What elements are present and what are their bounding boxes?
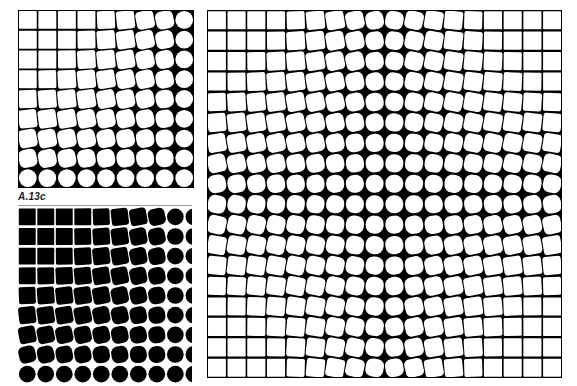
- grid-cell-shape: [266, 276, 287, 297]
- grid-cell-shape: [77, 11, 95, 29]
- grid-cell-shape: [484, 338, 502, 356]
- grid-cell-shape: [167, 326, 184, 343]
- grid-cell-shape: [286, 358, 305, 377]
- grid-cell-shape: [247, 72, 266, 91]
- grid-cell-shape: [167, 346, 184, 363]
- grid-cell-shape: [208, 32, 226, 50]
- grid-cell-shape: [115, 49, 136, 70]
- grid-cell-shape: [74, 228, 91, 245]
- grid-cell-shape: [325, 30, 346, 51]
- grid-cell-shape: [484, 32, 502, 50]
- grid-cell-shape: [504, 52, 522, 70]
- grid-cell-shape: [167, 267, 184, 284]
- grid-cell-shape: [502, 132, 524, 154]
- grid-cell-shape: [423, 316, 445, 338]
- grid-cell-shape: [111, 366, 128, 383]
- grid-cell-shape: [464, 11, 483, 30]
- grid-cell-shape: [92, 247, 111, 266]
- grid-cell-shape: [504, 318, 522, 336]
- grid-cell-shape: [175, 51, 193, 69]
- grid-cell-shape: [247, 297, 266, 316]
- grid-cell-shape: [463, 71, 484, 92]
- grid-cell-shape: [305, 337, 325, 357]
- grid-cell-shape: [97, 169, 115, 187]
- grid-cell-shape: [128, 226, 148, 246]
- grid-cell-shape: [484, 11, 502, 29]
- grid-cell-shape: [443, 30, 463, 50]
- grid-cell-shape: [115, 69, 136, 90]
- grid-cell-shape: [523, 72, 541, 90]
- grid-cell-shape: [523, 318, 541, 336]
- grid-cell-shape: [58, 50, 76, 68]
- grid-cell-shape: [208, 93, 227, 112]
- grid-cell-shape: [57, 70, 76, 89]
- grid-cell-shape: [443, 71, 464, 92]
- grid-cell-shape: [444, 358, 464, 378]
- grid-cell-shape: [286, 317, 306, 337]
- grid-cell-shape: [156, 169, 174, 187]
- grid-cell-shape: [19, 267, 36, 284]
- grid-cell-shape: [523, 52, 541, 70]
- grid-cell-shape: [207, 132, 227, 153]
- grid-cell-shape: [324, 50, 346, 72]
- grid-cell-shape: [543, 297, 561, 315]
- grid-cell-shape: [226, 112, 246, 132]
- grid-cell-shape: [523, 11, 541, 29]
- grid-cell-shape: [246, 276, 266, 296]
- grid-cell-shape: [56, 108, 77, 129]
- grid-cell-shape: [482, 112, 503, 133]
- grid-cell-shape: [325, 337, 346, 358]
- grid-cell-shape: [483, 52, 502, 71]
- grid-cell-shape: [130, 366, 147, 383]
- grid-cell-shape: [76, 69, 96, 89]
- grid-cell-shape: [19, 228, 36, 245]
- grid-cell-shape: [285, 275, 306, 296]
- grid-cell-shape: [543, 93, 562, 112]
- grid-cell-shape: [135, 10, 156, 30]
- grid-cell-shape: [93, 208, 110, 225]
- grid-cell-shape: [37, 286, 55, 304]
- grid-cell-shape: [543, 277, 562, 296]
- grid-cell-shape: [148, 366, 165, 383]
- grid-cell-shape: [18, 128, 38, 149]
- grid-cell-shape: [482, 255, 503, 276]
- grid-cell-shape: [208, 277, 227, 296]
- grid-cell-shape: [523, 276, 542, 295]
- pattern-panel-top-left: [18, 10, 194, 188]
- grid-cell-shape: [18, 90, 37, 109]
- grid-cell-shape: [483, 72, 503, 92]
- grid-cell-shape: [285, 255, 307, 277]
- grid-cell-shape: [464, 358, 483, 377]
- pattern-panel-right: [207, 10, 562, 378]
- grid-cell-shape: [38, 50, 56, 68]
- grid-cell-shape: [305, 71, 326, 92]
- grid-cell-shape: [463, 91, 484, 112]
- grid-cell-shape: [93, 366, 110, 383]
- grid-cell-shape: [246, 234, 268, 256]
- grid-cell-shape: [110, 266, 130, 286]
- grid-cell-shape: [228, 359, 246, 377]
- grid-cell-shape: [286, 11, 305, 30]
- grid-cell-shape: [423, 30, 444, 51]
- grid-cell-shape: [74, 208, 91, 225]
- grid-cell-shape: [325, 10, 346, 31]
- grid-cell-shape: [175, 110, 193, 128]
- grid-cell-shape: [464, 338, 483, 357]
- grid-cell-shape: [73, 286, 93, 306]
- grid-cell-shape: [266, 317, 285, 336]
- grid-cell-shape: [76, 89, 97, 110]
- grid-cell-shape: [462, 112, 484, 134]
- grid-cell-shape: [37, 208, 54, 225]
- grid-cell-shape: [543, 11, 561, 29]
- grid-cell-shape: [36, 305, 55, 324]
- grid-cell-shape: [96, 30, 116, 50]
- grid-cell-shape: [423, 10, 444, 31]
- grid-cell-shape: [305, 358, 325, 378]
- grid-cell-shape: [423, 357, 444, 378]
- grid-cell-shape: [18, 306, 37, 325]
- grid-cell-shape: [37, 267, 54, 284]
- grid-cell-shape: [246, 132, 268, 154]
- grid-cell-shape: [58, 169, 76, 187]
- grid-cell-shape: [96, 69, 117, 90]
- grid-cell-shape: [484, 359, 502, 377]
